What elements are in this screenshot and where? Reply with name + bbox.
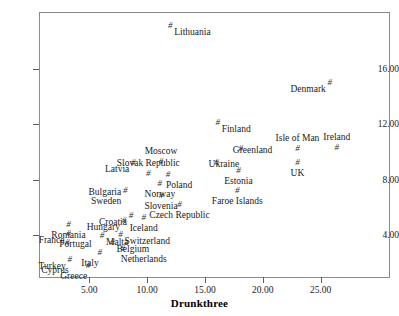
data-point-marker: #: [294, 158, 300, 167]
data-point-marker: #: [215, 118, 221, 127]
data-point-label: Sweden: [91, 196, 121, 206]
data-point-marker: #: [235, 166, 241, 175]
data-point-marker: #: [141, 213, 147, 222]
data-point-marker: #: [165, 170, 171, 179]
x-axis-title: Drunkthree: [0, 297, 399, 309]
data-point-marker: #: [234, 186, 240, 195]
data-point-label: UK: [291, 168, 305, 178]
data-point-marker: #: [177, 200, 183, 209]
data-point-marker: #: [157, 179, 163, 188]
data-point-label: Moscow: [145, 146, 178, 156]
clipped-title-remnant: [0, 0, 399, 5]
x-axis-tick-label: 20.00: [240, 285, 286, 295]
data-point-label: Iceland: [130, 223, 158, 233]
data-point-marker: #: [158, 191, 164, 200]
data-point-marker: #: [99, 231, 105, 240]
data-point-marker: #: [67, 255, 73, 264]
data-point-label: Netherlands: [121, 254, 167, 264]
data-point-marker: #: [122, 186, 128, 195]
data-point-marker: #: [65, 229, 71, 238]
data-point-label: Lithuania: [174, 27, 210, 37]
data-point-label: Ireland: [323, 132, 350, 142]
data-point-label: Faroe Islands: [212, 196, 263, 206]
data-point-marker: #: [85, 261, 91, 270]
data-point-marker: #: [327, 78, 333, 87]
data-point-label: Greece: [60, 271, 87, 281]
data-point-marker: #: [109, 238, 115, 247]
data-point-label: Czech Republic: [149, 210, 209, 220]
data-point-marker: #: [334, 143, 340, 152]
data-point-label: Portugal: [59, 239, 91, 249]
x-axis-tick-label: 15.00: [182, 285, 228, 295]
scatter-plot-figure: 4.008.0012.0016.005.0010.0015.0020.0025.…: [0, 0, 399, 316]
data-point-marker: #: [120, 244, 126, 253]
data-point-label: Greenland: [233, 145, 273, 155]
data-point-marker: #: [145, 169, 151, 178]
data-point-marker: #: [128, 211, 134, 220]
data-point-label: Finland: [222, 124, 251, 134]
data-point-label: Denmark: [291, 84, 326, 94]
x-axis-tick-label: 5.00: [66, 285, 112, 295]
x-axis-tick-label: 25.00: [298, 285, 344, 295]
data-point-label: Slovak Republic: [117, 158, 180, 168]
plot-data-area: #Lithuania#Denmark#Finland#Greenland#Isl…: [39, 12, 390, 278]
data-point-marker: #: [167, 21, 173, 30]
x-axis-tick-label: 10.00: [124, 285, 170, 295]
data-point-marker: #: [294, 144, 300, 153]
data-point-marker: #: [121, 216, 127, 225]
data-point-label: Isle of Man: [276, 133, 320, 143]
data-point-marker: #: [97, 248, 103, 257]
